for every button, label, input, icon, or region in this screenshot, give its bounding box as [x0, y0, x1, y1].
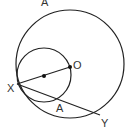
small-center-dot [42, 74, 46, 78]
label-lower-a: A [56, 102, 64, 114]
label-y: Y [101, 117, 109, 129]
label-x: X [7, 82, 15, 94]
label-top-a: A [41, 0, 49, 8]
label-o: O [73, 59, 82, 71]
large-circle [16, 10, 124, 118]
geometry-diagram: A O X A Y [0, 0, 126, 129]
point-o-dot [68, 65, 72, 69]
